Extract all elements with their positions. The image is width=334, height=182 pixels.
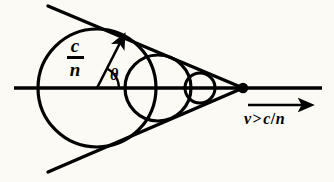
wave-speed-denominator: n	[60, 60, 90, 79]
wave-speed-numerator: c	[60, 36, 90, 55]
velocity-index: n	[276, 110, 285, 127]
lower-cone-line	[48, 88, 243, 172]
velocity-light-speed: c	[263, 110, 271, 127]
diagram-canvas	[0, 0, 334, 182]
angle-label: θ	[110, 67, 118, 83]
velocity-variable: v	[244, 110, 252, 127]
velocity-condition-label: v>c/n	[244, 111, 285, 127]
wave-speed-label: c n	[60, 36, 90, 79]
cherenkov-diagram: c n θ v>c/n	[0, 0, 334, 182]
source-point-icon	[238, 83, 248, 93]
greater-than-operator: >	[252, 110, 264, 127]
